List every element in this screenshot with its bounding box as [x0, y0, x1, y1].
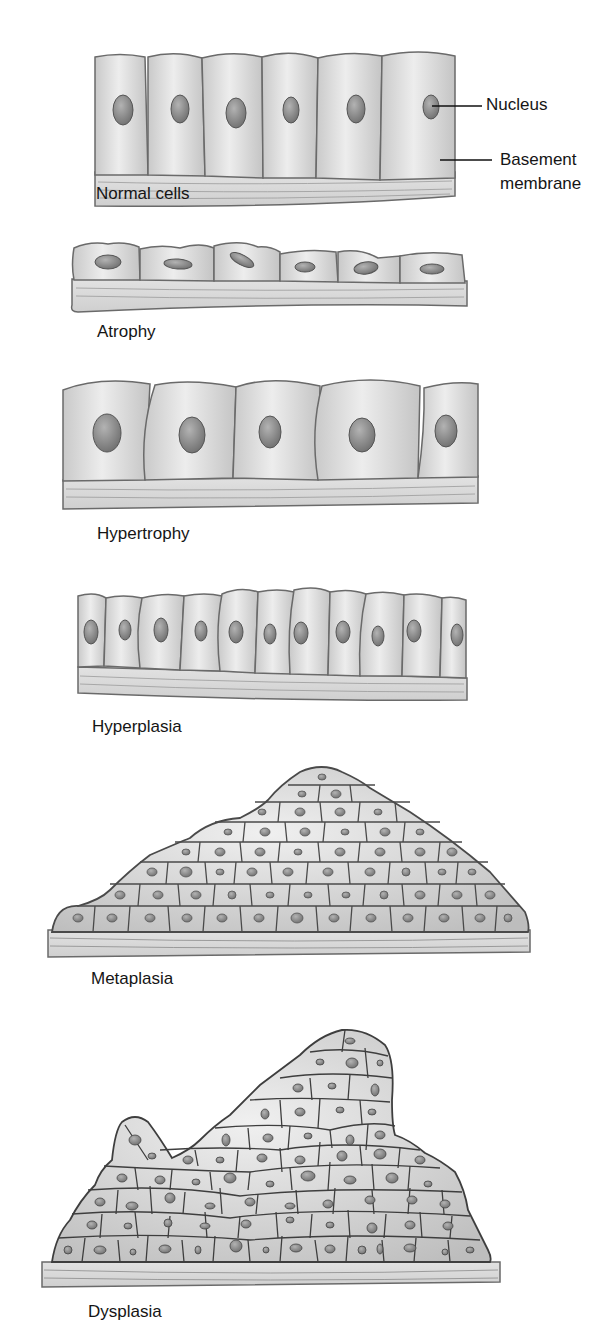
label-dysplasia: Dysplasia — [88, 1302, 162, 1322]
panel-dysplasia: Dysplasia — [0, 0, 599, 1328]
dysplasia-illustration — [0, 0, 599, 1328]
